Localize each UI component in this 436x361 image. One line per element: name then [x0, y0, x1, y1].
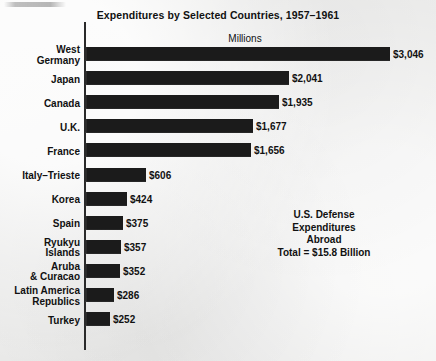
bar-value-label: $2,041	[292, 73, 323, 84]
annotation-line: Expenditures	[236, 222, 412, 235]
bar	[85, 143, 251, 157]
bar-category-label: Canada	[0, 99, 80, 110]
bar-value-label: $252	[113, 314, 135, 325]
bar-category-label: Japan	[0, 75, 80, 86]
bar-category-label: West Germany	[0, 45, 80, 66]
bar-value-label: $1,935	[282, 97, 313, 108]
bar-category-label: Korea	[0, 195, 80, 206]
bar	[85, 312, 110, 326]
bar-row: U.K.$1,677	[0, 116, 436, 136]
annotation-line: U.S. Defense	[236, 209, 412, 222]
bar	[85, 95, 279, 109]
bar-row: West Germany$3,046	[0, 44, 436, 64]
bar-category-label: France	[0, 147, 80, 158]
bar-category-label: Ryukyu Islands	[0, 238, 80, 259]
bar	[85, 216, 123, 230]
bar-category-label: Aruba & Curacao	[0, 262, 80, 283]
plot-area: West Germany$3,046Japan$2,041Canada$1,93…	[0, 0, 436, 361]
bar	[85, 192, 127, 206]
bar-value-label: $1,677	[256, 121, 287, 132]
bar	[85, 47, 390, 61]
chart-page: Expenditures by Selected Countries, 1957…	[0, 0, 436, 361]
bar-value-label: $606	[149, 170, 171, 181]
bar-row: Korea$424	[0, 189, 436, 209]
bar-category-label: Spain	[0, 219, 80, 230]
bar	[85, 119, 253, 133]
bar	[85, 168, 146, 182]
bar-category-label: Latin America Republics	[0, 286, 80, 307]
bar-value-label: $1,656	[254, 145, 285, 156]
bar-row: Latin America Republics$286	[0, 285, 436, 305]
bar	[85, 288, 114, 302]
bar-value-label: $357	[124, 242, 146, 253]
bar-row: Japan$2,041	[0, 68, 436, 88]
bar-row: France$1,656	[0, 140, 436, 160]
bar-value-label: $375	[126, 218, 148, 229]
annotation-line: Abroad	[236, 234, 412, 247]
bar	[85, 264, 120, 278]
bar-category-label: Italy–Trieste	[0, 171, 80, 182]
bar-value-label: $352	[123, 266, 145, 277]
total-annotation: U.S. DefenseExpendituresAbroadTotal = $1…	[236, 209, 412, 259]
bar-value-label: $424	[130, 194, 152, 205]
annotation-line: Total = $15.8 Billion	[236, 247, 412, 260]
bar	[85, 71, 289, 85]
bar-category-label: U.K.	[0, 123, 80, 134]
bar-row: Canada$1,935	[0, 92, 436, 112]
bar	[85, 240, 121, 254]
bar-row: Aruba & Curacao$352	[0, 261, 436, 281]
bar-value-label: $3,046	[393, 49, 424, 60]
bar-row: Italy–Trieste$606	[0, 165, 436, 185]
bar-category-label: Turkey	[0, 316, 80, 327]
bar-value-label: $286	[117, 290, 139, 301]
bar-row: Turkey$252	[0, 309, 436, 329]
